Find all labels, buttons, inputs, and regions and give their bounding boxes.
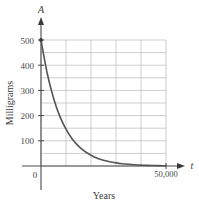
- y-axis-title: Milligrams: [4, 81, 15, 126]
- y-tick-label-300: 300: [21, 86, 35, 96]
- origin-label: 0: [33, 170, 38, 180]
- y-tick-label-400: 400: [21, 61, 35, 71]
- y-tick-label-500: 500: [21, 36, 35, 46]
- x-axis-title: Years: [93, 190, 115, 201]
- x-end-label: 50,000: [154, 169, 177, 179]
- y-axis-variable-label: A: [37, 4, 45, 15]
- exponential-decay-chart: 500 400 300 200 100 0 50,000 A t Years M…: [0, 0, 199, 207]
- x-axis-variable-label: t: [191, 160, 194, 171]
- y-tick-label-200: 200: [21, 111, 35, 121]
- curve-start-marker: [39, 38, 43, 42]
- chart-figure: 500 400 300 200 100 0 50,000 A t Years M…: [0, 0, 199, 207]
- y-tick-label-100: 100: [21, 136, 35, 146]
